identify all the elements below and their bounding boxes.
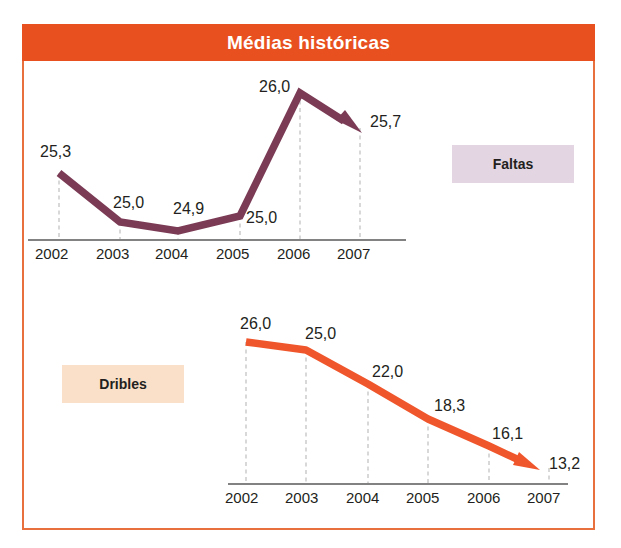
legend-label-faltas: Faltas: [493, 156, 533, 172]
outer-frame: [22, 24, 595, 530]
tick-faltas-2007: 2007: [337, 245, 370, 262]
page-title: Médias históricas: [227, 32, 390, 54]
value-label-faltas-2006: 26,0: [259, 78, 290, 96]
tick-dribles-2002: 2002: [225, 489, 258, 506]
tick-faltas-2006: 2006: [277, 245, 310, 262]
tick-faltas-2002: 2002: [35, 245, 68, 262]
value-label-dribles-2004: 22,0: [372, 363, 403, 381]
infographic-root: Médias históricas 25,3 25,0 24,9 25,0 26…: [0, 0, 621, 548]
value-label-faltas-2004: 24,9: [173, 200, 204, 218]
tick-dribles-2003: 2003: [285, 489, 318, 506]
tick-dribles-2005: 2005: [406, 489, 439, 506]
tick-faltas-2004: 2004: [155, 245, 188, 262]
legend-chip-dribles: Dribles: [62, 365, 184, 403]
value-label-dribles-2006: 16,1: [492, 425, 523, 443]
tick-dribles-2006: 2006: [467, 489, 500, 506]
value-label-dribles-2007: 13,2: [549, 455, 580, 473]
value-label-dribles-2002: 26,0: [240, 315, 271, 333]
tick-faltas-2005: 2005: [216, 245, 249, 262]
legend-chip-faltas: Faltas: [452, 145, 574, 183]
value-label-faltas-2002: 25,3: [40, 143, 71, 161]
value-label-dribles-2005: 18,3: [434, 397, 465, 415]
legend-label-dribles: Dribles: [99, 376, 146, 392]
value-label-faltas-2007: 25,7: [370, 113, 401, 131]
value-label-faltas-2003: 25,0: [113, 194, 144, 212]
tick-dribles-2007: 2007: [527, 489, 560, 506]
value-label-faltas-2005: 25,0: [246, 209, 277, 227]
value-label-dribles-2003: 25,0: [305, 325, 336, 343]
title-bar: Médias históricas: [22, 24, 595, 61]
tick-faltas-2003: 2003: [96, 245, 129, 262]
tick-dribles-2004: 2004: [346, 489, 379, 506]
